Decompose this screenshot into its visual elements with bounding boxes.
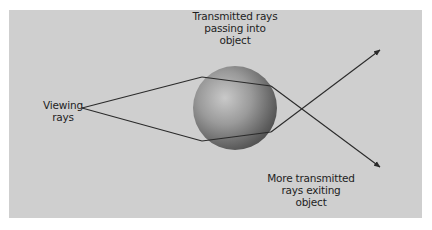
transmitted-out-line-2: rays exiting xyxy=(256,184,366,196)
viewing-rays-line-2: rays xyxy=(28,111,98,123)
transmitted-in-line-2: passing into xyxy=(180,22,290,34)
viewing-rays-line-1: Viewing xyxy=(28,99,98,111)
transmitted-out-line-3: object xyxy=(256,196,366,208)
sphere-object xyxy=(193,66,277,150)
transmitted-in-label: Transmitted rays passing into object xyxy=(180,10,290,46)
transmitted-in-line-1: Transmitted rays xyxy=(180,10,290,22)
transmitted-in-line-3: object xyxy=(180,34,290,46)
transmitted-out-label: More transmitted rays exiting object xyxy=(256,172,366,208)
transmitted-out-line-1: More transmitted xyxy=(256,172,366,184)
viewing-rays-label: Viewing rays xyxy=(28,99,98,123)
